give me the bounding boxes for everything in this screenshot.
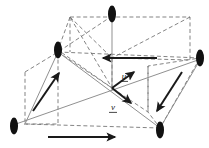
node-left-lower — [10, 118, 18, 135]
vector-diagram-figure: u v — [0, 0, 209, 148]
node-left-upper — [54, 42, 62, 59]
label-v: v — [111, 102, 115, 112]
label-u: u — [122, 71, 127, 81]
figure-background — [0, 0, 209, 148]
node-right-upper — [196, 50, 204, 67]
node-top — [108, 6, 116, 23]
node-right-lower — [156, 122, 164, 139]
